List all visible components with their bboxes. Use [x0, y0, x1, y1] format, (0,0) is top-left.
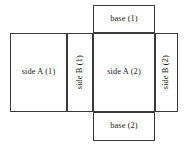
face-side-b-1-label: side B (1) — [76, 55, 84, 89]
face-side-a-1-label: side A (1) — [22, 68, 56, 76]
face-base-1: base (1) — [93, 5, 155, 33]
box-net-diagram: base (1) side A (1) side B (1) side A (2… — [0, 0, 186, 145]
face-side-a-1: side A (1) — [10, 33, 67, 112]
face-side-b-1: side B (1) — [67, 33, 93, 112]
face-base-2-label: base (2) — [110, 122, 138, 130]
face-side-a-2: side A (2) — [93, 33, 155, 112]
face-base-1-label: base (1) — [110, 15, 138, 23]
face-base-2: base (2) — [93, 112, 155, 141]
face-side-b-2: side B (2) — [155, 33, 178, 112]
face-side-a-2-label: side A (2) — [107, 68, 141, 76]
face-side-b-2-label: side B (2) — [162, 55, 170, 89]
